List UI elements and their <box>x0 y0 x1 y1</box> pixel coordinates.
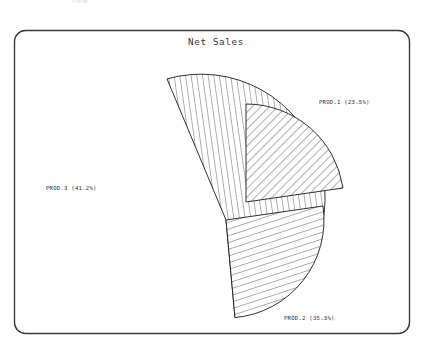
pie-label-prod3: PROD.3 (41.2%) <box>46 185 97 191</box>
chart-title: Net Sales <box>188 36 244 47</box>
pie-chart: Net Sales PROD.1 (23.5%) PROD.2 (35.3%) … <box>0 0 432 351</box>
screenshot-canvas: new Net Sales <box>0 0 432 351</box>
pie-slice-prod1-group[interactable] <box>246 104 343 202</box>
pie-slice-prod1[interactable] <box>246 104 343 202</box>
pie-label-prod1: PROD.1 (23.5%) <box>319 99 370 105</box>
pie-slice-prod2[interactable] <box>226 206 324 318</box>
pie-label-prod2: PROD.2 (35.3%) <box>284 315 335 321</box>
